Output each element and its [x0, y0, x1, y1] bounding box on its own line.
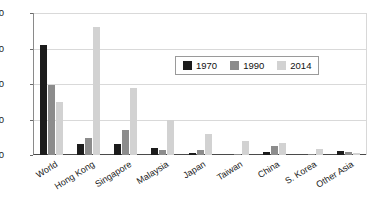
- legend-swatch-icon-2014: [277, 61, 286, 70]
- bar: [40, 45, 47, 155]
- y-axis-tick-label: 20: [0, 79, 4, 88]
- bar: [263, 152, 270, 155]
- y-axis-tick-mark: [30, 49, 33, 50]
- bar: [130, 88, 137, 155]
- y-axis-tick-label: 10: [0, 115, 4, 124]
- bar-group: [39, 45, 65, 155]
- legend-item-2014: 2014: [277, 61, 311, 70]
- bar: [56, 102, 63, 155]
- y-axis-tick-mark: [30, 84, 33, 85]
- y-axis-tick-mark: [30, 155, 33, 156]
- legend-label-1990: 1990: [243, 61, 264, 70]
- legend-item-1990: 1990: [230, 61, 264, 70]
- bar: [234, 154, 241, 155]
- bar: [77, 144, 84, 155]
- bar-group: [113, 88, 139, 155]
- bar-group: [224, 141, 250, 155]
- gridline: [34, 13, 367, 14]
- bar: [353, 153, 360, 155]
- legend-swatch-icon-1990: [230, 61, 239, 70]
- bar: [122, 130, 129, 155]
- bar: [85, 138, 92, 155]
- bar-group: [335, 151, 361, 155]
- y-axis-tick-label: 40: [0, 8, 4, 17]
- legend-swatch-icon-1970: [183, 61, 192, 70]
- bar-group: [298, 149, 324, 155]
- bar: [316, 149, 323, 155]
- bar-group: [187, 134, 213, 155]
- legend-item-1970: 1970: [183, 61, 217, 70]
- bar: [308, 154, 315, 155]
- legend-label-1970: 1970: [196, 61, 217, 70]
- bar: [197, 150, 204, 155]
- bar: [159, 150, 166, 155]
- bar: [205, 134, 212, 155]
- y-axis-tick-label: 30: [0, 44, 4, 53]
- bar: [242, 141, 249, 155]
- legend-label-2014: 2014: [290, 61, 311, 70]
- y-axis-tick-mark: [30, 13, 33, 14]
- bar: [345, 152, 352, 155]
- chart-legend: 1970 1990 2014: [175, 56, 319, 75]
- y-axis-tick-mark: [30, 120, 33, 121]
- bar: [167, 120, 174, 156]
- bar-chart: 1970 1990 2014 010203040WorldHong KongSi…: [0, 0, 375, 208]
- bar: [93, 27, 100, 155]
- y-axis-tick-label: 0: [0, 150, 4, 159]
- bar: [114, 144, 121, 155]
- bar-group: [261, 143, 287, 155]
- bar: [271, 146, 278, 155]
- bar: [189, 153, 196, 155]
- bar-group: [150, 120, 176, 156]
- plot-frame-right: [366, 13, 367, 155]
- bar: [151, 148, 158, 155]
- bar: [279, 143, 286, 155]
- bar: [337, 151, 344, 155]
- bar: [48, 85, 55, 155]
- bar-group: [76, 27, 102, 155]
